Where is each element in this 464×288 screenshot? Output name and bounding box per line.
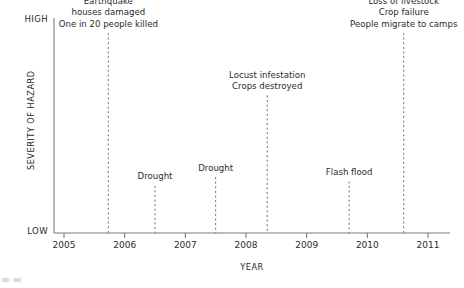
event-label-locust-infestation: Locust infestationCrops destroyed [229,70,305,93]
event-label-line: Drought [138,171,173,182]
y-axis-low-label: LOW [6,226,48,236]
x-tick-label: 2009 [295,240,318,250]
event-label-flash-flood: Flash flood [326,167,373,178]
y-axis-title: SEVERITY OF HAZARD [26,70,36,170]
event-marker-lines [108,33,403,233]
x-tick-label: 2007 [174,240,197,250]
page-edge-artifact: ▃ ▃ [2,272,22,282]
event-label-severe-drought: Severe droughtWells dried upLoss of live… [350,0,457,30]
event-label-line: Crops destroyed [229,81,305,92]
event-label-earthquake: Earthquakehouses damagedOne in 20 people… [59,0,158,30]
y-axis-high-label: HIGH [6,14,48,24]
event-label-line: houses damaged [59,7,158,18]
x-tick-label: 2005 [53,240,76,250]
x-tick-label: 2008 [235,240,258,250]
event-label-line: Loss of livestock [350,0,457,7]
event-label-drought-2006: Drought [138,171,173,182]
x-tick-label: 2011 [417,240,440,250]
hazard-timeline-chart: HIGH LOW SEVERITY OF HAZARD YEAR 2005200… [0,0,464,288]
x-tick-label: 2010 [356,240,379,250]
event-label-line: Flash flood [326,167,373,178]
event-label-line: Crop failure [350,7,457,18]
event-label-line: One in 20 people killed [59,19,158,30]
event-label-drought-2007: Drought [198,163,233,174]
event-label-line: Earthquake [59,0,158,7]
event-label-line: People migrate to camps [350,19,457,30]
x-tick-label: 2006 [113,240,136,250]
x-axis-title: YEAR [0,262,464,272]
event-label-line: Locust infestation [229,70,305,81]
x-axis-ticks [64,233,428,238]
event-label-line: Drought [198,163,233,174]
